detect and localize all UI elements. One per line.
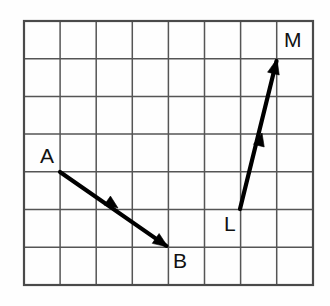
- point-label-a: A: [40, 144, 54, 167]
- vector-grid-svg: ABLM: [0, 0, 330, 306]
- vector-diagram-figure: ABLM: [0, 0, 330, 306]
- point-label-b: B: [173, 249, 187, 272]
- point-label-m: M: [284, 28, 302, 51]
- point-label-l: L: [224, 212, 236, 235]
